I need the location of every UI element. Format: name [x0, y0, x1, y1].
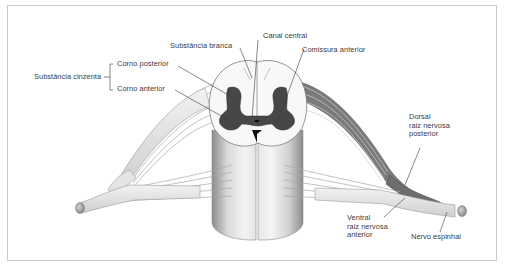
label-corno-anterior: Corno anterior	[117, 85, 165, 94]
cord-right-column	[258, 130, 303, 240]
label-ventral-root: Ventral raiz nervosa anterior	[347, 214, 388, 240]
label-dorsal-root: Dorsal raiz nervosa posterior	[409, 113, 450, 139]
white-matter	[209, 60, 306, 146]
right-nerve-cap	[458, 206, 467, 217]
label-nervo-espinhal: Nervo espinhal	[411, 233, 461, 242]
label-ventral-line3: anterior	[347, 231, 388, 240]
label-dorsal-line3: posterior	[409, 130, 450, 139]
left-nerve-cap	[76, 203, 85, 214]
label-substancia-branca: Substância branca	[170, 42, 232, 51]
right-spinal-nerve	[315, 188, 455, 217]
left-spinal-nerve	[80, 185, 200, 213]
left-dorsal-root-bundle	[118, 88, 210, 186]
cord-left-column	[212, 130, 256, 240]
central-canal	[255, 120, 260, 123]
label-canal-central: Canal central	[263, 32, 307, 41]
label-corno-posterior: Corno posterior	[117, 60, 169, 69]
label-comissura-anterior: Comissura anterior	[302, 46, 365, 55]
label-substancia-cinzenta: Substância cinzenta	[34, 73, 101, 82]
